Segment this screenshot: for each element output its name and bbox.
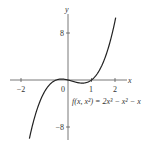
y-tick-label: 8	[60, 29, 64, 38]
x-tick-label: 1	[89, 85, 93, 94]
function-plot: x y −2 0 1 2 8 −8 f(x, x²) = 2x³ − x² − …	[0, 0, 158, 147]
x-tick-label: −2	[17, 85, 26, 94]
function-curve	[29, 18, 115, 139]
y-axis-label: y	[64, 5, 69, 14]
function-label: f(x, x²) = 2x³ − x² − x	[72, 97, 141, 106]
x-tick-label: 0	[61, 85, 65, 94]
x-tick-label: 2	[113, 85, 117, 94]
y-tick-label: −8	[55, 123, 64, 132]
x-axis-label: x	[127, 76, 132, 85]
